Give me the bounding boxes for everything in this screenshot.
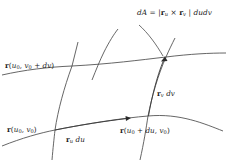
surface-area-element-figure: dA = |ru × rv | dudv r(u0, v0 + dv) r(u0… [0, 0, 228, 163]
v-curve-interior [92, 29, 118, 80]
br-plus: + [137, 126, 143, 135]
figure-canvas [0, 0, 228, 163]
tangent-vector-u-label: ru du [66, 136, 85, 144]
vecv-dv: dv [166, 89, 175, 98]
br-comma: , [155, 126, 157, 135]
tl-dv: dv [43, 61, 52, 70]
formula-cross-icon: × [170, 8, 176, 17]
vecu-sub: u [70, 138, 73, 144]
br-du: du [145, 126, 154, 135]
vecv-sub: v [161, 92, 164, 98]
bl-comma: , [22, 125, 24, 134]
corner-label-bottom-right: r(u0 + du, v0) [120, 127, 170, 135]
corner-label-bottom-left: r(u0, v0) [7, 126, 37, 134]
tl-paren-close: ) [51, 61, 54, 70]
tl-sub-0b: 0 [29, 64, 32, 70]
u-direction-arrowhead [126, 116, 132, 121]
corner-label-top-left: r(u0, v0 + dv) [5, 62, 54, 70]
vecu-du: du [76, 135, 85, 144]
area-element-formula: dA = |ru × rv | dudv [137, 9, 212, 17]
br-sub-0: 0 [131, 129, 134, 135]
tl-comma: , [20, 61, 22, 70]
formula-leader-line [139, 25, 163, 56]
br-paren-close: ) [167, 126, 170, 135]
formula-equals: = [150, 8, 156, 17]
formula-dA: dA [137, 8, 147, 17]
tl-plus: + [34, 61, 40, 70]
formula-dv: dv [203, 8, 212, 17]
tangent-vector-u-arrow [55, 119, 127, 131]
tangent-vector-v-label: rv dv [157, 90, 175, 98]
formula-du: du [193, 8, 203, 17]
bl-paren-close: ) [34, 125, 37, 134]
